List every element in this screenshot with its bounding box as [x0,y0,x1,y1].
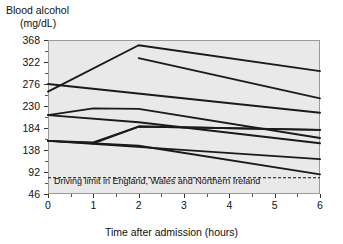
plot-area [48,40,320,194]
x-tick-label: 0 [38,200,58,211]
x-minor-tick-mark [116,194,117,197]
y-tick-label: 184 [14,123,40,134]
y-tick-mark [44,40,48,41]
y-minor-tick-mark [45,95,48,96]
y-tick-label: 368 [14,35,40,46]
y-minor-tick-mark [45,73,48,74]
x-tick-mark [229,194,230,198]
y-tick-mark [44,106,48,107]
x-tick-label: 1 [83,200,103,211]
driving-limit-annotation: Driving limit in England, Wales and Nort… [54,176,260,186]
y-minor-tick-mark [45,161,48,162]
x-tick-mark [184,194,185,198]
x-axis-label: Time after admission (hours) [0,226,343,239]
y-axis-label-primary: Blood alcohol [6,4,69,17]
y-tick-mark [44,128,48,129]
x-tick-mark [275,194,276,198]
y-tick-label: 46 [14,189,40,200]
x-tick-mark [48,194,49,198]
x-tick-label: 6 [310,200,330,211]
y-tick-mark [44,62,48,63]
x-tick-label: 4 [219,200,239,211]
y-tick-mark [44,172,48,173]
y-tick-mark [44,150,48,151]
x-minor-tick-mark [297,194,298,197]
y-tick-label: 322 [14,57,40,68]
blood-alcohol-line-chart: Blood alcohol (mg/dL) 368322276230184138… [0,0,343,244]
x-minor-tick-mark [71,194,72,197]
y-tick-label: 276 [14,79,40,90]
x-tick-mark [93,194,94,198]
y-axis-label-units: (mg/dL) [20,17,56,30]
y-tick-mark [44,84,48,85]
x-tick-mark [139,194,140,198]
y-minor-tick-mark [45,117,48,118]
y-tick-label: 230 [14,101,40,112]
x-minor-tick-mark [252,194,253,197]
x-tick-label: 3 [174,200,194,211]
y-tick-label: 138 [14,145,40,156]
y-minor-tick-mark [45,183,48,184]
y-minor-tick-mark [45,139,48,140]
x-minor-tick-mark [161,194,162,197]
x-minor-tick-mark [207,194,208,197]
y-tick-label: 92 [14,167,40,178]
y-minor-tick-mark [45,51,48,52]
x-tick-mark [320,194,321,198]
x-tick-label: 2 [129,200,149,211]
x-tick-label: 5 [265,200,285,211]
